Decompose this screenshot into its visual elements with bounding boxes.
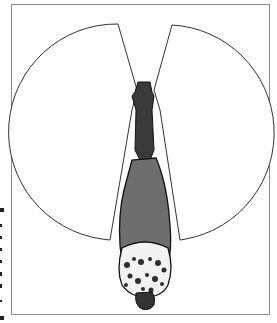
horse-head: [132, 82, 154, 160]
horse-tail: [136, 292, 155, 310]
horse-vision-illustration: [0, 0, 277, 323]
left-vision-field: [9, 24, 137, 240]
right-vision-field: [154, 25, 274, 240]
